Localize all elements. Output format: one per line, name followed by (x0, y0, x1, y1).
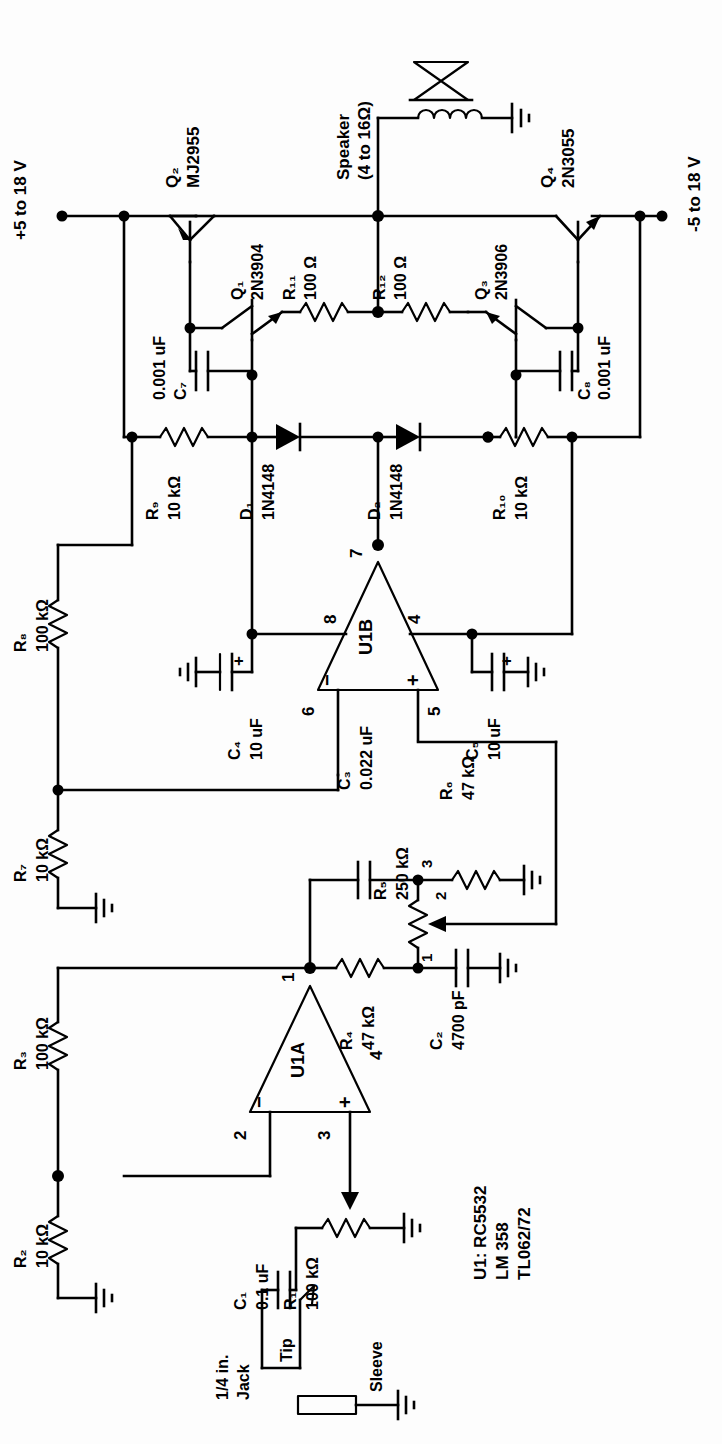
svg-text:4: 4 (405, 614, 424, 624)
potentiometer-r1: R₁ 100 kΩ (282, 1214, 420, 1310)
svg-text:+: + (334, 1096, 356, 1108)
svg-text:2: 2 (432, 892, 449, 900)
svg-text:D₂: D₂ (366, 501, 383, 520)
svg-text:TL062/72: TL062/72 (515, 1207, 534, 1280)
svg-text:C₁: C₁ (232, 1291, 249, 1310)
svg-text:Tip: Tip (278, 1338, 295, 1362)
capacitor-c8: C₈ 0.001 uF (516, 328, 613, 400)
svg-text:R₅: R₅ (372, 881, 389, 900)
svg-text:3: 3 (418, 860, 435, 868)
svg-text:8: 8 (321, 615, 340, 624)
svg-text:R₁₀: R₁₀ (491, 495, 508, 520)
svg-text:+: + (497, 656, 516, 666)
svg-text:C₈: C₈ (576, 381, 593, 400)
transistor-q1 (190, 300, 300, 437)
svg-text:R₁₁: R₁₁ (281, 275, 298, 300)
svg-text:LM 358: LM 358 (493, 1222, 512, 1280)
u1b-output-node (372, 539, 384, 551)
svg-text:R₈: R₈ (12, 633, 29, 652)
capacitor-c3: C₃ 0.022 uF (310, 726, 418, 968)
svg-text:1N4148: 1N4148 (260, 464, 277, 520)
svg-text:R₇: R₇ (12, 864, 29, 882)
svg-text:Q₂: Q₂ (163, 167, 182, 188)
svg-text:0.001 uF: 0.001 uF (596, 336, 613, 400)
svg-text:47 kΩ: 47 kΩ (360, 1006, 377, 1050)
svg-text:7: 7 (347, 549, 366, 558)
resistor-r2: R₂ 10 kΩ (12, 1170, 112, 1312)
svg-text:+: + (402, 674, 424, 686)
svg-text:2N3906: 2N3906 (493, 244, 510, 300)
resistor-r4: R₄ 47 kΩ (310, 959, 418, 1050)
resistor-r8: R₈ 100 kΩ (12, 437, 132, 796)
svg-text:Sleeve: Sleeve (368, 1341, 385, 1392)
svg-text:4700 pF: 4700 pF (450, 990, 467, 1050)
svg-text:C₃: C₃ (336, 771, 353, 790)
svg-text:3: 3 (315, 1131, 334, 1140)
resistor-r10: R₁₀ 10 kΩ (483, 428, 641, 520)
opamp-u1a: U1A − + 1 2 3 4 (124, 973, 386, 1210)
svg-text:6: 6 (299, 707, 318, 716)
svg-text:1N4148: 1N4148 (388, 464, 405, 520)
circuit-schematic-svg: Speaker (4 to 16Ω) +5 to 18 V -5 to 18 V… (0, 0, 722, 1444)
svg-text:2N3904: 2N3904 (249, 244, 266, 300)
svg-text:0.022 uF: 0.022 uF (358, 726, 375, 790)
q4-label: Q₄ 2N3055 (538, 128, 578, 188)
svg-text:−: − (248, 1096, 270, 1108)
speaker-symbol (378, 62, 529, 216)
svg-text:R₆: R₆ (438, 781, 455, 800)
svg-text:0.1 uF: 0.1 uF (254, 1264, 271, 1310)
svg-text:10 kΩ: 10 kΩ (513, 476, 530, 520)
svg-text:0.001 uF: 0.001 uF (151, 336, 168, 400)
resistor-r3: R₃ 100 kΩ (12, 968, 310, 1176)
ic-note: U1: RC5532 LM 358 TL062/72 (471, 1186, 534, 1281)
svg-text:100 kΩ: 100 kΩ (34, 1017, 51, 1070)
svg-text:R₄: R₄ (338, 1031, 355, 1050)
svg-text:R₂: R₂ (12, 1249, 29, 1268)
svg-text:10 kΩ: 10 kΩ (166, 476, 183, 520)
svg-text:100 kΩ: 100 kΩ (34, 599, 51, 652)
speaker-label: Speaker (4 to 16Ω) (334, 101, 374, 180)
svg-text:2N3055: 2N3055 (559, 128, 578, 188)
svg-text:Q₄: Q₄ (538, 167, 557, 188)
svg-text:Q₃: Q₃ (473, 280, 490, 300)
svg-text:47 kΩ: 47 kΩ (460, 756, 477, 800)
svg-text:Jack: Jack (235, 1364, 252, 1400)
positive-rail: +5 to 18 V (11, 159, 196, 437)
capacitor-c7: 0.001 uF C₇ (151, 328, 252, 400)
svg-text:R₉: R₉ (144, 501, 161, 520)
svg-text:100 Ω: 100 Ω (302, 256, 319, 300)
svg-text:U1A: U1A (288, 1042, 308, 1078)
svg-text:C₇: C₇ (172, 382, 189, 400)
svg-text:1: 1 (279, 973, 298, 982)
svg-text:100 Ω: 100 Ω (392, 256, 409, 300)
driver-center-node (372, 306, 384, 318)
svg-text:Q₁: Q₁ (229, 281, 246, 300)
resistor-r12: R₁₂ 100 Ω (371, 256, 468, 321)
svg-text:10 uF: 10 uF (248, 718, 265, 760)
svg-text:10 kΩ: 10 kΩ (34, 838, 51, 882)
svg-text:−: − (316, 674, 338, 686)
svg-text:10 kΩ: 10 kΩ (34, 1224, 51, 1268)
svg-text:1/4 in.: 1/4 in. (214, 1355, 231, 1400)
svg-text:2: 2 (231, 1131, 250, 1140)
q1-label: Q₁ 2N3904 (229, 244, 266, 300)
svg-text:10 uF: 10 uF (486, 718, 503, 760)
capacitor-c4: + C₄ 10 uF (180, 634, 265, 760)
svg-text:+5 to 18 V: +5 to 18 V (11, 159, 30, 240)
svg-text:MJ2955: MJ2955 (184, 127, 203, 188)
svg-text:U1: RC5532: U1: RC5532 (471, 1186, 490, 1281)
svg-text:U1B: U1B (356, 619, 376, 655)
transistor-q3 (468, 300, 578, 437)
svg-text:Speaker: Speaker (334, 113, 353, 180)
svg-text:+: + (229, 656, 248, 666)
schematic-canvas: Speaker (4 to 16Ω) +5 to 18 V -5 to 18 V… (0, 0, 722, 1444)
svg-text:-5 to 18 V: -5 to 18 V (685, 156, 704, 232)
bias-bus (124, 432, 160, 443)
svg-text:1: 1 (418, 954, 435, 962)
svg-text:R₃: R₃ (12, 1051, 29, 1070)
capacitor-c2: C₂ 4700 pF (418, 950, 516, 1050)
svg-text:C₂: C₂ (428, 1031, 445, 1050)
svg-text:C₄: C₄ (226, 741, 243, 760)
resistor-r6: R₆ 47 kΩ (418, 756, 540, 894)
q3-label: Q₃ 2N3906 (473, 244, 510, 300)
